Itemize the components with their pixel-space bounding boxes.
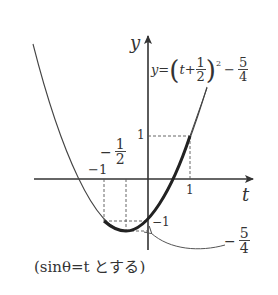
equation-plus: +: [185, 63, 196, 76]
equation-lhs: y=: [151, 63, 169, 76]
equation-leader-line: [190, 88, 207, 136]
y-tick-1: 1: [137, 129, 145, 141]
equation-const-fraction: 5 4: [238, 56, 248, 83]
minimum-pointer-arrow: [151, 233, 225, 249]
y-min-sign: −: [224, 234, 236, 248]
x-axis-label: t: [242, 186, 249, 204]
x-tick-neg-half: − 1 2: [100, 137, 126, 166]
equation-open-paren: (: [169, 57, 179, 83]
neg-half-sign: −: [100, 145, 112, 159]
caption: (sinθ=t とする): [34, 260, 145, 275]
fraction-numerator: 5: [239, 226, 250, 241]
x-tick-1: 1: [186, 184, 194, 196]
fraction-numerator: 1: [115, 137, 126, 152]
equation-close-paren: ): [206, 57, 216, 83]
y-min-label: − 5 4: [224, 226, 250, 255]
fraction-denominator: 2: [115, 152, 126, 166]
fraction-numerator: 5: [238, 56, 248, 70]
equation-exponent: 2: [216, 60, 221, 68]
y-min-fraction: 5 4: [239, 226, 250, 255]
fraction-denominator: 4: [238, 70, 248, 83]
fraction-denominator: 4: [239, 241, 250, 255]
fraction-denominator: 2: [196, 70, 206, 83]
y-axis-label: y: [130, 34, 140, 52]
equation-label: y= ( t + 1 2 ) 2 − 5 4: [151, 56, 248, 83]
parabola-diagram: y t y= ( t + 1 2 ) 2 − 5 4 1 1 −1 − 1 2 …: [0, 0, 278, 295]
equation-minus: −: [224, 63, 235, 76]
y-tick-neg1: −1: [152, 216, 170, 228]
neg-half-fraction: 1 2: [115, 137, 126, 166]
equation-half-fraction: 1 2: [196, 56, 206, 83]
fraction-numerator: 1: [196, 56, 206, 70]
